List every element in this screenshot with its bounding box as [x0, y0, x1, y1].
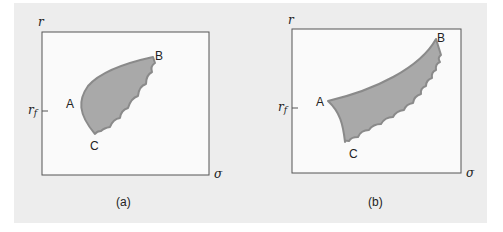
figure-canvas: r σ rf A B C (a) r σ rf A B C (b)	[0, 0, 503, 232]
point-label-B-b: B	[437, 31, 445, 45]
point-label-A-a: A	[66, 97, 74, 111]
caption-b: (b)	[368, 195, 383, 209]
point-label-C-b: C	[349, 147, 358, 161]
x-axis-label-b: σ	[466, 166, 475, 180]
panel-a: r σ rf A B C (a)	[28, 15, 223, 209]
point-label-A-b: A	[316, 95, 324, 109]
point-label-C-a: C	[90, 139, 99, 153]
caption-a: (a)	[116, 195, 131, 209]
rf-label-b: rf	[278, 100, 289, 115]
y-axis-label-a: r	[38, 15, 45, 29]
rf-label-a: rf	[28, 103, 39, 118]
x-axis-label-a: σ	[214, 167, 223, 181]
y-axis-label-b: r	[288, 13, 295, 27]
point-label-B-a: B	[155, 49, 163, 63]
panel-b: r σ rf A B C (b)	[278, 13, 475, 209]
